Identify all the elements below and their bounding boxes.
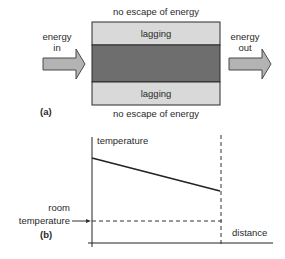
temperature-line [92,158,220,191]
bottom-lagging-label: lagging [92,88,220,99]
bottom-no-escape-label: no escape of energy [92,108,220,119]
energy-out-label-line2: out [226,42,264,53]
energy-in-label-line1: energy [38,31,76,42]
pointer-arrowhead-icon [86,219,91,223]
top-no-escape-label: no escape of energy [92,6,220,17]
room-temperature-label-line1: room [44,202,70,213]
room-temperature-label-line2: temperature [8,215,70,226]
x-axis-label: distance [232,227,267,238]
conducting-core [92,45,220,82]
energy-out-label-line1: energy [226,31,264,42]
top-lagging-label: lagging [92,28,220,39]
energy-in-label-line2: in [38,42,76,53]
panel-a-label: (a) [40,106,52,117]
energy-in-arrow-icon [43,49,85,79]
energy-out-arrow-icon [229,49,271,79]
y-axis-label: temperature [97,135,148,146]
panel-b-label: (b) [40,229,52,240]
